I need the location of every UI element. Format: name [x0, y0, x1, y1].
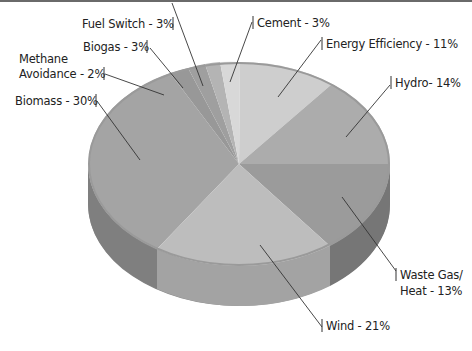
label-energy-efficiency: Energy Efficiency - 11% — [326, 37, 458, 51]
label-biogas: Biogas - 3% — [83, 40, 149, 54]
label-cement: Cement - 3% — [257, 16, 330, 30]
label-hydro: Hydro- 14% — [395, 76, 461, 90]
pie-chart — [0, 0, 472, 351]
label-biomass: Biomass - 30% — [15, 94, 98, 108]
label-wind: Wind - 21% — [326, 319, 390, 333]
pie-top — [88, 62, 390, 266]
label-methane-line2: Avoidance - 2% — [19, 67, 105, 81]
label-methane-line1: Methane — [19, 52, 68, 66]
label-waste-gas-line2: Heat - 13% — [400, 284, 462, 298]
label-waste-gas-line1: Waste Gas/ — [400, 268, 463, 282]
label-fuel-switch: Fuel Switch - 3% — [82, 17, 174, 31]
